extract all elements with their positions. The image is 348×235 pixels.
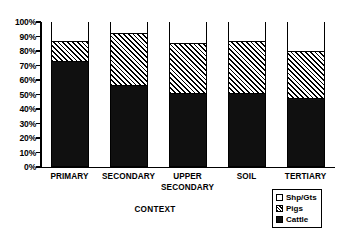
y-axis-tick-label: 40% [0, 105, 36, 114]
legend-item-cattle: Cattle [276, 214, 317, 225]
y-axis-tick-label: 70% [0, 61, 36, 70]
bar-segment-pigs [288, 51, 324, 99]
bar-segment-shp [170, 21, 206, 43]
plot-area [40, 22, 335, 167]
legend-swatch-shp-gts-icon [276, 194, 283, 201]
bar-segment-cattle [229, 94, 265, 167]
bar-segment-shp [52, 21, 88, 41]
legend-label-cattle: Cattle [286, 215, 308, 224]
y-axis-tick-mark [36, 36, 41, 38]
y-axis-tick-label: 0% [0, 163, 36, 172]
y-axis-tick-mark [36, 166, 41, 168]
y-axis-tick-label: 100% [0, 18, 36, 27]
legend: Shp/Gts Pigs Cattle [272, 189, 322, 228]
bar-primary[interactable] [51, 22, 89, 167]
x-axis-category-label: TERTIARY [263, 172, 348, 183]
y-axis-tick-mark [36, 108, 41, 110]
y-axis-tick-mark [36, 152, 41, 154]
legend-label-shp-gts: Shp/Gts [286, 193, 317, 202]
y-axis-tick-mark [36, 21, 41, 23]
stacked-bar-chart: 0%10%20%30%40%50%60%70%80%90%100% CONTEX… [0, 0, 348, 235]
bar-segment-pigs [170, 43, 206, 94]
bar-segment-cattle [52, 62, 88, 166]
bar-segment-pigs [52, 41, 88, 61]
bar-tertiary[interactable] [287, 22, 325, 167]
x-axis-title: CONTEXT [40, 205, 270, 214]
bar-segment-cattle [170, 94, 206, 167]
y-axis-tick-mark [36, 137, 41, 139]
y-axis-tick-mark [36, 79, 41, 81]
y-axis-tick-label: 60% [0, 76, 36, 85]
bar-upper-secondary[interactable] [169, 22, 207, 167]
bar-segment-cattle [288, 99, 324, 166]
legend-item-pigs: Pigs [276, 203, 317, 214]
y-axis-tick-label: 10% [0, 148, 36, 157]
legend-label-pigs: Pigs [286, 204, 303, 213]
y-axis-tick-mark [36, 94, 41, 96]
y-axis-tick-label: 50% [0, 90, 36, 99]
y-axis-tick-label: 30% [0, 119, 36, 128]
y-axis: 0%10%20%30%40%50%60%70%80%90%100% [0, 0, 36, 235]
y-axis-tick-label: 90% [0, 32, 36, 41]
legend-swatch-pigs-icon [276, 205, 283, 212]
bar-segment-shp [111, 21, 147, 33]
bar-segment-shp [229, 21, 265, 41]
y-axis-tick-mark [36, 65, 41, 67]
bar-soil[interactable] [228, 22, 266, 167]
y-axis-tick-label: 80% [0, 47, 36, 56]
bar-segment-pigs [229, 41, 265, 93]
bar-segment-cattle [111, 86, 147, 166]
legend-item-shp-gts: Shp/Gts [276, 192, 317, 203]
bar-segment-shp [288, 21, 324, 51]
y-axis-tick-label: 20% [0, 134, 36, 143]
y-axis-tick-mark [36, 50, 41, 52]
y-axis-tick-mark [36, 123, 41, 125]
legend-swatch-cattle-icon [276, 216, 283, 223]
bar-secondary[interactable] [110, 22, 148, 167]
bar-segment-pigs [111, 33, 147, 87]
